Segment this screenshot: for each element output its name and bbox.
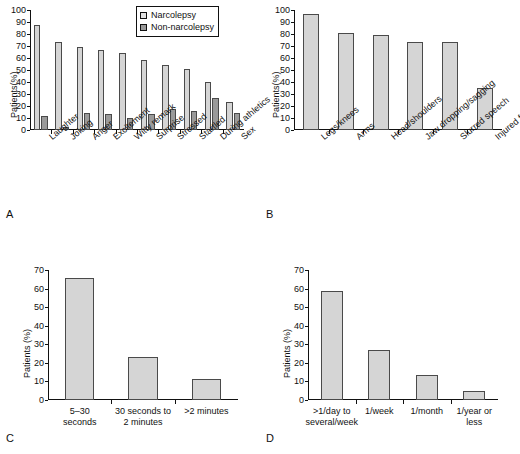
bar — [65, 278, 94, 400]
bar — [303, 14, 319, 130]
y-tick-mark — [291, 118, 294, 119]
bar — [34, 25, 40, 130]
x-tick-label: Startled — [197, 134, 203, 142]
x-tick-label: During athletics — [218, 134, 224, 142]
y-tick-mark — [305, 326, 308, 327]
y-axis-label-b: Patients(%) — [271, 71, 281, 118]
y-tick-label: 90 — [16, 18, 26, 27]
y-tick-mark — [27, 70, 30, 71]
x-tick-label: 1/year orless — [443, 406, 505, 428]
legend-item-narcolepsy: Narcolepsy — [140, 9, 214, 21]
y-tick-mark — [27, 130, 30, 131]
y-tick-label: 40 — [34, 321, 44, 330]
y-tick-label: 60 — [16, 54, 26, 63]
x-tick-label-line: >2 minutes — [165, 406, 247, 417]
y-tick-mark — [305, 400, 308, 401]
x-tick-label-line: 1/year or — [443, 406, 505, 417]
x-tick-label: Arms — [354, 134, 360, 142]
y-tick-mark — [291, 106, 294, 107]
panel-letter-d: D — [266, 432, 274, 444]
x-tick-label: Laughter — [47, 134, 53, 142]
y-tick-label: 20 — [294, 358, 304, 367]
y-tick-label: 60 — [34, 284, 44, 293]
y-tick-mark — [291, 82, 294, 83]
x-tick-label: Stressed — [175, 134, 181, 142]
y-tick-label: 60 — [294, 284, 304, 293]
y-tick-mark — [27, 106, 30, 107]
y-tick-label: 80 — [280, 30, 290, 39]
y-tick-label: 50 — [34, 303, 44, 312]
y-tick-mark — [305, 344, 308, 345]
y-tick-label: 70 — [34, 266, 44, 275]
x-tick-label: Witty remark — [132, 134, 138, 142]
y-tick-label: 30 — [294, 340, 304, 349]
y-tick-label: 70 — [294, 266, 304, 275]
y-tick-label: 20 — [34, 358, 44, 367]
bar — [55, 42, 61, 130]
y-tick-label: 70 — [16, 42, 26, 51]
y-tick-label: 10 — [294, 377, 304, 386]
y-tick-label: 90 — [280, 18, 290, 27]
y-axis-label-d: Patients (%) — [282, 329, 292, 378]
legend-swatch-icon-narcolepsy — [140, 12, 147, 19]
panel-letter-b: B — [266, 208, 274, 220]
x-tick-label: Legs/knees — [319, 134, 325, 142]
y-tick-mark — [45, 400, 48, 401]
y-tick-mark — [45, 270, 48, 271]
y-tick-label: 40 — [294, 321, 304, 330]
y-axis-a — [30, 10, 31, 130]
x-tick-mark — [403, 400, 404, 404]
y-tick-mark — [305, 363, 308, 364]
y-tick-mark — [45, 344, 48, 345]
y-tick-mark — [291, 22, 294, 23]
y-axis-c — [48, 270, 49, 400]
y-tick-label: 80 — [16, 30, 26, 39]
panel-c: 010203040506070 Patients (%) 5–30seconds… — [0, 230, 260, 454]
panel-d: 010203040506070 Patients (%) >1/day tose… — [260, 230, 520, 454]
y-tick-mark — [305, 270, 308, 271]
y-tick-label: 40 — [280, 78, 290, 87]
x-tick-label: Jaw dropping/sagging — [423, 134, 429, 142]
y-tick-label: 100 — [11, 6, 26, 15]
x-tick-mark — [356, 400, 357, 404]
y-tick-mark — [27, 34, 30, 35]
y-axis-b — [294, 10, 295, 130]
y-tick-label: 10 — [34, 377, 44, 386]
y-tick-mark — [45, 307, 48, 308]
plot-area-d: 010203040506070 — [308, 270, 498, 400]
bar — [416, 375, 438, 400]
x-tick-label: Slurred speech — [458, 134, 464, 142]
y-tick-mark — [45, 289, 48, 290]
legend-a: Narcolepsy Non-narcolepsy — [136, 6, 219, 37]
y-tick-mark — [291, 130, 294, 131]
y-tick-mark — [27, 58, 30, 59]
x-tick-label: Head/shoulders — [389, 134, 395, 142]
figure-cataplexy-panels: 0102030405060708090100 Patients(%) Narco… — [0, 0, 520, 454]
y-tick-mark — [45, 363, 48, 364]
y-tick-mark — [291, 34, 294, 35]
y-tick-mark — [291, 46, 294, 47]
panel-a: 0102030405060708090100 Patients(%) Narco… — [0, 0, 260, 230]
y-tick-mark — [27, 10, 30, 11]
legend-label-non-narcolepsy: Non-narcolepsy — [151, 21, 214, 33]
bar — [119, 53, 125, 130]
y-tick-mark — [305, 381, 308, 382]
x-tick-mark — [111, 400, 112, 404]
x-tick-label: >2 minutes — [165, 406, 247, 417]
y-tick-mark — [45, 381, 48, 382]
y-tick-mark — [291, 94, 294, 95]
bar — [368, 350, 390, 400]
panel-letter-c: C — [6, 432, 14, 444]
x-tick-label: Anger — [90, 134, 96, 142]
x-tick-mark — [175, 400, 176, 404]
y-tick-mark — [305, 307, 308, 308]
bar — [463, 391, 485, 400]
plot-area-c: 010203040506070 — [48, 270, 238, 400]
y-tick-label: 20 — [280, 102, 290, 111]
y-tick-label: 0 — [285, 126, 290, 135]
y-tick-mark — [291, 58, 294, 59]
y-tick-label: 50 — [294, 303, 304, 312]
y-tick-mark — [45, 326, 48, 327]
bar — [98, 50, 104, 130]
bar — [321, 291, 343, 400]
